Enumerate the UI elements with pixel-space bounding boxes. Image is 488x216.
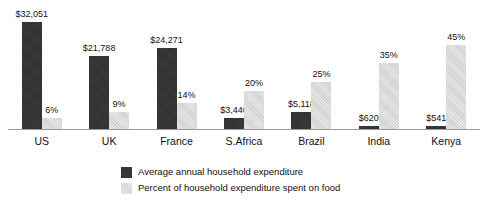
bar-group: $24,27114% (143, 0, 210, 129)
chart-legend: Average annual household expenditure Per… (0, 166, 488, 194)
x-axis-tick-label: France (143, 134, 210, 152)
bar-value-label: $541 (426, 113, 446, 124)
bar-groups: $32,0516%$21,7889%$24,27114%$3,44020%$5,… (8, 0, 480, 129)
bar-food-percent: 6% (42, 118, 62, 129)
bar-pair: $24,27114% (157, 0, 197, 129)
x-axis-tick-label: Brazil (278, 134, 345, 152)
x-axis-tick-label: UK (75, 134, 142, 152)
bar-value-label: $21,788 (83, 43, 116, 54)
x-axis-tick-label: S.Africa (210, 134, 277, 152)
legend-label-food-percent: Percent of household expenditure spent o… (138, 182, 340, 194)
plot-area: $32,0516%$21,7889%$24,27114%$3,44020%$5,… (0, 0, 488, 130)
bar-value-label: 9% (113, 99, 126, 110)
bar-value-label: $24,271 (150, 35, 183, 46)
bar-value-label: 45% (447, 32, 465, 43)
bar-pair: $3,44020% (224, 0, 264, 129)
bar-expenditure: $24,271 (157, 48, 177, 129)
bar-value-label: 20% (245, 78, 263, 89)
bar-group: $5,11825% (278, 0, 345, 129)
x-axis-line (8, 129, 480, 130)
bar-value-label: 14% (178, 90, 196, 101)
bar-value-label: $32,051 (15, 9, 48, 20)
bar-food-percent: 25% (311, 82, 331, 129)
bar-pair: $54145% (426, 0, 466, 129)
bar-group: $32,0516% (8, 0, 75, 129)
bar-value-label: 35% (380, 50, 398, 61)
bar-expenditure: $21,788 (89, 56, 109, 129)
bar-chart: $32,0516%$21,7889%$24,27114%$3,44020%$5,… (0, 0, 488, 216)
bar-group: $62035% (345, 0, 412, 129)
bar-value-label: $620 (359, 113, 379, 124)
bar-food-percent: 14% (177, 103, 197, 129)
bar-pair: $62035% (359, 0, 399, 129)
bar-expenditure: $32,051 (22, 22, 42, 129)
bar-value-label: 25% (312, 69, 330, 80)
bar-food-percent: 45% (446, 45, 466, 129)
bar-group: $3,44020% (210, 0, 277, 129)
legend-label-expenditure: Average annual household expenditure (138, 166, 303, 178)
bar-pair: $5,11825% (291, 0, 331, 129)
bar-value-label: 6% (45, 105, 58, 116)
legend-item-food-percent: Percent of household expenditure spent o… (121, 182, 367, 194)
x-axis-tick-label: Kenya (413, 134, 480, 152)
bar-pair: $21,7889% (89, 0, 129, 129)
x-axis-tick-label: India (345, 134, 412, 152)
bar-group: $54145% (413, 0, 480, 129)
bar-group: $21,7889% (75, 0, 142, 129)
legend-swatch-dark-icon (121, 167, 132, 178)
x-axis-tick-label: US (8, 134, 75, 152)
bar-food-percent: 9% (109, 112, 129, 129)
bar-expenditure: $5,118 (291, 112, 311, 129)
bar-pair: $32,0516% (22, 0, 62, 129)
legend-swatch-light-icon (121, 183, 132, 194)
x-axis-tick-labels: USUKFranceS.AfricaBrazilIndiaKenya (8, 134, 480, 152)
bar-food-percent: 35% (379, 63, 399, 129)
legend-item-expenditure: Average annual household expenditure (121, 166, 367, 178)
bar-expenditure: $3,440 (224, 118, 244, 129)
bar-food-percent: 20% (244, 91, 264, 129)
